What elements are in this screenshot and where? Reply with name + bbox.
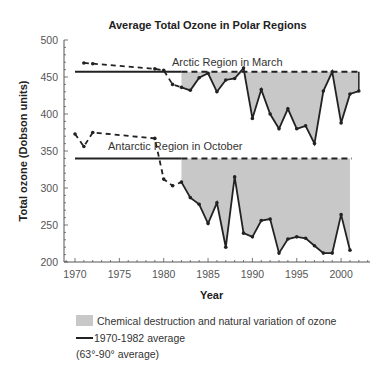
data-point — [251, 235, 255, 239]
data-point — [330, 70, 334, 74]
data-point — [171, 184, 175, 188]
x-axis-label: Year — [200, 289, 223, 301]
gray-swatch-icon — [76, 315, 93, 326]
data-point — [259, 219, 263, 223]
antarctic-loss-area — [181, 158, 350, 253]
data-point — [215, 201, 219, 205]
data-point — [189, 89, 193, 93]
data-point — [277, 251, 281, 255]
data-point — [206, 222, 210, 226]
x-tick-label: 2000 — [329, 268, 353, 280]
data-point — [259, 88, 263, 92]
arctic-label: Arctic Region in March — [172, 56, 283, 68]
ozone-chart: 2002503003504004505001970197519801985199… — [0, 0, 385, 300]
data-point — [197, 76, 201, 80]
data-point — [215, 90, 219, 94]
legend-line-label: 1970-1982 average — [94, 332, 185, 344]
data-point — [189, 196, 193, 200]
data-point — [82, 145, 86, 149]
data-point — [171, 83, 175, 87]
data-point — [304, 124, 308, 128]
data-point — [304, 237, 308, 241]
data-point — [268, 217, 272, 221]
data-point — [295, 127, 299, 131]
x-tick-label: 1970 — [63, 268, 87, 280]
data-point — [180, 180, 184, 184]
data-point — [162, 69, 166, 73]
data-point — [322, 89, 326, 93]
legend-area-label: Chemical destruction and natural variati… — [97, 315, 336, 327]
data-point — [286, 237, 290, 241]
data-point — [82, 61, 86, 65]
data-point — [91, 62, 95, 66]
x-tick-label: 1980 — [152, 268, 176, 280]
y-tick-label: 500 — [40, 34, 58, 46]
y-tick-label: 350 — [40, 145, 58, 157]
data-point — [251, 117, 255, 121]
data-point — [162, 177, 166, 181]
data-point — [322, 251, 326, 255]
y-tick-label: 200 — [40, 256, 58, 268]
data-point — [242, 231, 246, 235]
y-tick-label: 400 — [40, 108, 58, 120]
x-tick-label: 1995 — [285, 268, 309, 280]
legend: Chemical destruction and natural variati… — [76, 313, 336, 360]
data-point — [286, 107, 290, 111]
data-point — [339, 121, 343, 125]
data-point — [73, 132, 77, 136]
data-point — [277, 127, 281, 131]
data-point — [197, 202, 201, 206]
data-point — [233, 175, 237, 179]
data-point — [233, 77, 237, 81]
data-point — [330, 251, 334, 255]
data-point — [348, 92, 352, 96]
data-point — [295, 235, 299, 239]
arctic-loss-area — [181, 72, 358, 144]
antarctic-label: Antarctic Region in October — [108, 140, 243, 152]
y-tick-label: 250 — [40, 219, 58, 231]
x-tick-label: 1985 — [196, 268, 220, 280]
data-point — [153, 67, 157, 71]
data-point — [348, 248, 352, 252]
data-point — [224, 78, 228, 82]
legend-item-area: Chemical destruction and natural variati… — [76, 313, 336, 328]
data-point — [313, 244, 317, 248]
arctic-early-line — [84, 63, 182, 87]
data-point — [206, 72, 210, 76]
y-axis-label: Total ozone (Dobson units) — [17, 76, 29, 226]
data-point — [313, 142, 317, 146]
latitude-note: (63°-90° average) — [76, 348, 336, 360]
data-point — [180, 86, 184, 90]
data-point — [224, 245, 228, 249]
y-tick-label: 450 — [40, 71, 58, 83]
x-tick-label: 1990 — [241, 268, 265, 280]
data-point — [339, 213, 343, 217]
data-point — [268, 112, 272, 116]
data-point — [91, 131, 95, 135]
x-tick-label: 1975 — [108, 268, 132, 280]
line-swatch-icon — [76, 337, 93, 339]
legend-item-line: 1970-1982 average — [76, 330, 336, 345]
y-tick-label: 300 — [40, 182, 58, 194]
